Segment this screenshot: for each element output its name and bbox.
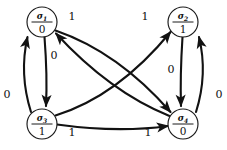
edge-s3-to-s2 <box>56 32 171 116</box>
edge-s1-to-s3 <box>45 37 47 106</box>
state-node-s4[interactable]: σ4 0 <box>168 109 198 139</box>
edge-s4-to-s1 <box>56 34 170 117</box>
state-node-output-s4: 0 <box>180 125 187 137</box>
edge-s1-to-s4 <box>56 31 171 113</box>
state-node-s2[interactable]: σ2 1 <box>168 7 198 37</box>
edge-label-s1-to-s3: 0 <box>51 49 58 62</box>
edge-label-s4-to-s2: 0 <box>216 88 223 101</box>
edge-label-s1-to-s4: 1 <box>69 10 76 23</box>
state-node-output-s3: 1 <box>39 125 46 137</box>
state-transition-diagram: 1 1 0 0 0 0 1 1 σ1 0 σ2 1 σ3 1 <box>0 0 227 150</box>
edge-label-s3-to-s4: 1 <box>69 126 76 139</box>
edge-label-s4-to-s1: 1 <box>145 126 152 139</box>
edge-s2-to-s4 <box>181 37 183 106</box>
edge-s3-to-s1 <box>24 37 31 112</box>
edge-label-s2-to-s4: 0 <box>168 63 175 76</box>
state-node-output-s2: 1 <box>180 23 187 35</box>
edge-label-s3-to-s1: 0 <box>4 88 11 101</box>
state-node-s1[interactable]: σ1 0 <box>27 7 57 37</box>
edge-label-s3-to-s2: 1 <box>142 10 149 23</box>
state-node-s3[interactable]: σ3 1 <box>27 109 57 139</box>
state-diagram-canvas: 1 1 0 0 0 0 1 1 σ1 0 σ2 1 σ3 1 <box>0 0 227 150</box>
edge-s4-to-s2 <box>196 37 203 112</box>
state-node-output-s1: 0 <box>39 23 46 35</box>
